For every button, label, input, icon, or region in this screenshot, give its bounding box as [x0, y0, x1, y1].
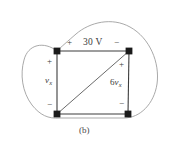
left-branch-variable-label: vx	[45, 76, 52, 87]
right-wire-6vx-branch	[128, 51, 129, 114]
left-branch-minus-sign: −	[47, 100, 52, 109]
figure-caption: (b)	[79, 126, 90, 135]
left-branch-plus-sign: +	[47, 57, 52, 66]
right-variable-subscript: x	[119, 81, 122, 88]
source-value-label: 30 V	[83, 38, 103, 48]
right-branch-variable-label: 6vx	[110, 78, 122, 89]
circuit-figure: + 30 V − + vx − + 6vx − (b)	[0, 0, 171, 145]
node-top-right	[126, 48, 133, 55]
source-plus-sign: +	[67, 38, 72, 47]
right-variable-symbol: v	[115, 77, 119, 87]
left-variable-subscript: x	[49, 79, 52, 86]
node-bottom-right	[125, 111, 132, 118]
source-minus-sign: −	[114, 38, 119, 47]
right-branch-minus-sign: −	[119, 99, 124, 108]
node-bottom-left	[54, 111, 61, 118]
circuit-diagram-svg	[0, 0, 171, 145]
node-top-left	[54, 48, 61, 55]
right-branch-plus-sign: +	[119, 60, 124, 69]
